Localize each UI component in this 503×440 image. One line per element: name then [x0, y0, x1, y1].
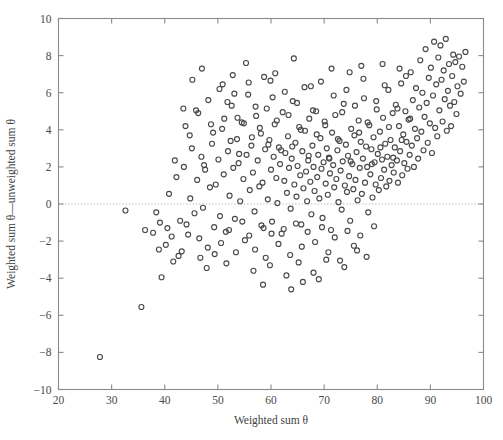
data-point-marker [330, 130, 335, 135]
data-point-marker [427, 121, 432, 126]
data-point-marker [157, 220, 162, 225]
data-point-marker [273, 71, 278, 76]
data-point-marker [438, 43, 443, 48]
data-point-marker [229, 103, 234, 108]
data-point-marker [442, 97, 447, 102]
data-point-marker [349, 126, 354, 131]
data-point-marker [341, 101, 346, 106]
data-point-marker [452, 99, 457, 104]
data-point-marker [167, 191, 172, 196]
data-point-marker [380, 61, 385, 66]
data-point-marker [261, 282, 266, 287]
data-point-marker [225, 149, 230, 154]
data-point-marker [423, 47, 428, 52]
data-point-marker [241, 176, 246, 181]
data-point-marker [347, 174, 352, 179]
data-point-marker [332, 185, 337, 190]
data-point-marker [280, 110, 285, 115]
data-point-marker [408, 70, 413, 75]
data-point-marker [433, 125, 438, 130]
data-point-marker [184, 222, 189, 227]
data-point-marker [395, 180, 400, 185]
data-point-marker [201, 205, 206, 210]
data-point-marker [163, 242, 168, 247]
data-point-marker [363, 180, 368, 185]
data-point-marker [172, 158, 177, 163]
data-point-marker [244, 61, 249, 66]
y-tick-label: 0 [46, 198, 52, 210]
data-point-marker [347, 70, 352, 75]
data-point-marker [289, 287, 294, 292]
data-point-marker [165, 226, 170, 231]
data-point-marker [282, 89, 287, 94]
data-point-marker [295, 163, 300, 168]
data-point-marker [181, 164, 186, 169]
data-point-marker [351, 243, 356, 248]
data-point-marker [356, 118, 361, 123]
data-point-marker [187, 133, 192, 138]
data-point-marker [417, 105, 422, 110]
data-point-marker [436, 55, 441, 60]
data-point-marker [382, 83, 387, 88]
data-point-marker [206, 98, 211, 103]
data-point-marker [301, 186, 306, 191]
data-point-marker [291, 56, 296, 61]
data-point-marker [308, 179, 313, 184]
data-point-marker [445, 88, 450, 93]
data-point-marker [340, 110, 345, 115]
x-tick-label: 70 [318, 394, 330, 406]
data-point-marker [250, 170, 255, 175]
data-point-marker [235, 137, 240, 142]
data-point-marker [316, 152, 321, 157]
y-tick-label: −4 [39, 272, 51, 284]
data-point-marker [382, 167, 387, 172]
data-point-marker [373, 182, 378, 187]
scatter-plot-figure: 2030405060708090100−10−8−6−4−20246810Wei… [0, 0, 503, 440]
data-point-marker [174, 175, 179, 180]
data-point-marker [232, 216, 237, 221]
data-point-marker [204, 266, 209, 271]
data-point-marker [295, 100, 300, 105]
data-point-marker [320, 225, 325, 230]
data-point-marker [361, 96, 366, 101]
data-point-marker [199, 66, 204, 71]
data-point-marker [284, 273, 289, 278]
data-point-marker [253, 247, 258, 252]
data-point-marker [321, 160, 326, 165]
data-point-marker [344, 189, 349, 194]
data-point-marker [249, 135, 254, 140]
data-point-marker [391, 170, 396, 175]
x-tick-label: 100 [475, 394, 493, 406]
data-point-marker [237, 151, 242, 156]
data-point-marker [240, 219, 245, 224]
data-point-marker [342, 183, 347, 188]
data-point-marker [401, 132, 406, 137]
data-point-marker [431, 93, 436, 98]
data-point-marker [378, 145, 383, 150]
data-point-marker [286, 134, 291, 139]
data-point-marker [368, 172, 373, 177]
y-axis-title: Weighted sum θ—unweighted sum θ [5, 119, 18, 289]
data-point-marker [192, 211, 197, 216]
data-point-marker [221, 172, 226, 177]
data-point-marker [358, 233, 363, 238]
data-point-marker [257, 125, 262, 130]
y-tick-label: 6 [46, 87, 52, 99]
data-point-marker [186, 232, 191, 237]
data-point-marker [416, 156, 421, 161]
plot-frame [59, 19, 484, 390]
data-point-marker [440, 119, 445, 124]
data-point-marker [461, 79, 466, 84]
data-point-marker [329, 66, 334, 71]
data-point-marker [386, 87, 391, 92]
data-point-marker [233, 250, 238, 255]
data-point-marker [302, 85, 307, 90]
data-point-marker [451, 52, 456, 57]
data-point-marker [331, 93, 336, 98]
data-point-marker [275, 201, 280, 206]
data-point-marker [460, 64, 465, 69]
y-tick-label: −6 [39, 309, 51, 321]
data-point-marker [310, 143, 315, 148]
data-point-marker [171, 259, 176, 264]
data-point-marker [453, 60, 458, 65]
